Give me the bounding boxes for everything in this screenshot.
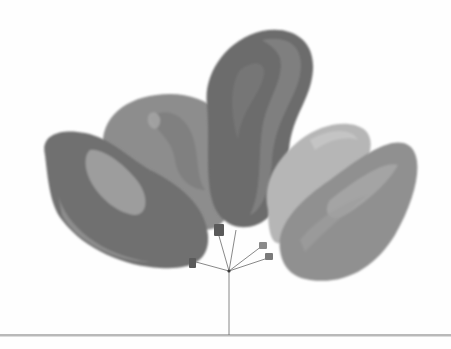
balloons-artwork <box>0 0 451 349</box>
string-knot <box>227 269 230 272</box>
balloon-illustration: Grayscale watercolor illustration of a b… <box>0 0 451 349</box>
ground-line <box>0 334 451 337</box>
